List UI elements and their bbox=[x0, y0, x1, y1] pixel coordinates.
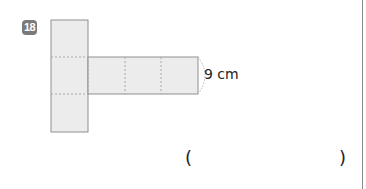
column-divider bbox=[362, 0, 363, 189]
dimension-label: 9 cm bbox=[204, 66, 239, 82]
answer-open-paren: ( bbox=[185, 147, 192, 168]
answer-close-paren: ) bbox=[339, 147, 346, 168]
cube-net-figure bbox=[0, 0, 366, 189]
net-column bbox=[51, 20, 88, 132]
net-row bbox=[88, 57, 198, 94]
